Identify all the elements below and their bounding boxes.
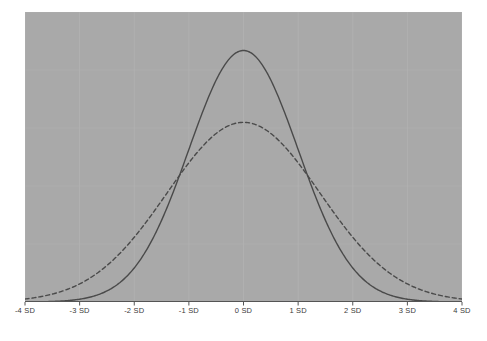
x-axis-tick-label: 1 SD [268,306,328,315]
x-axis-tick-label: 3 SD [377,306,437,315]
distribution-plot [25,12,462,302]
x-axis-tick-label: 2 SD [323,306,383,315]
x-axis-tick-label: -2 SD [104,306,164,315]
plot-panel [25,12,462,302]
chart-figure: -4 SD-3 SD-2 SD-1 SD0 SD1 SD2 SD3 SD4 SD [0,0,487,341]
x-axis-tick-marks [25,302,462,306]
x-axis-labels: -4 SD-3 SD-2 SD-1 SD0 SD1 SD2 SD3 SD4 SD [0,306,487,326]
x-axis-tick-label: -3 SD [50,306,110,315]
x-axis-tick-label: 0 SD [214,306,274,315]
x-axis-tick-label: -1 SD [159,306,219,315]
grid-lines [25,12,462,302]
x-axis-tick-label: 4 SD [432,306,487,315]
x-axis-tick-label: -4 SD [0,306,55,315]
